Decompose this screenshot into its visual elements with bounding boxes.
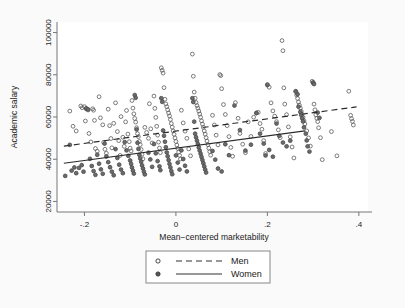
- data-point-women: [119, 168, 123, 172]
- data-point-women: [74, 171, 78, 175]
- data-point-women: [132, 172, 136, 176]
- data-point-women: [220, 170, 224, 174]
- x-tick-label: .2: [264, 220, 271, 229]
- data-point-women: [134, 96, 138, 100]
- data-point-women: [306, 144, 310, 148]
- data-point-women: [95, 153, 99, 157]
- data-point-women: [94, 173, 98, 177]
- data-point-women: [92, 169, 96, 173]
- data-point-women: [170, 172, 174, 176]
- data-point-women: [110, 170, 114, 174]
- data-point-women: [108, 165, 112, 169]
- data-point-women: [255, 111, 259, 115]
- data-point-women: [90, 164, 94, 168]
- data-point-women: [114, 147, 118, 151]
- y-tick-label: 20000: [44, 190, 53, 213]
- data-point-women: [213, 158, 217, 162]
- data-point-women: [264, 154, 268, 158]
- data-point-women: [258, 132, 262, 136]
- data-point-women: [190, 96, 194, 100]
- data-point-women: [158, 165, 162, 169]
- data-point-women: [106, 160, 110, 164]
- data-point-women: [297, 105, 301, 109]
- y-tick-label: 40000: [44, 148, 53, 171]
- data-point-women: [227, 153, 231, 157]
- data-point-women: [281, 141, 285, 145]
- data-point-women: [312, 82, 316, 86]
- data-point-women: [301, 120, 305, 124]
- data-point-women: [302, 125, 306, 129]
- data-point-women: [304, 132, 308, 136]
- data-point-women: [305, 139, 309, 143]
- data-point-women: [99, 167, 103, 171]
- data-point-women: [191, 100, 195, 104]
- data-point-women: [233, 104, 237, 108]
- data-point-women: [154, 151, 158, 155]
- data-point-women: [125, 148, 129, 152]
- data-point-women: [72, 166, 76, 170]
- data-point-women: [204, 171, 208, 175]
- data-point-women: [185, 170, 189, 174]
- data-point-women: [68, 143, 72, 147]
- data-point-women: [163, 140, 167, 144]
- data-point-women: [80, 163, 84, 167]
- legend-marker-women: [156, 272, 160, 276]
- y-tick-label: 60000: [44, 105, 53, 128]
- data-point-women: [97, 162, 101, 166]
- data-point-women: [165, 151, 169, 155]
- data-point-women: [275, 122, 279, 126]
- data-point-women: [271, 155, 275, 159]
- data-point-women: [262, 142, 266, 146]
- data-point-women: [101, 172, 105, 176]
- data-point-women: [166, 154, 170, 158]
- data-point-women: [181, 157, 185, 161]
- data-point-women: [150, 165, 154, 169]
- data-point-women: [161, 129, 165, 133]
- data-point-women: [180, 148, 184, 152]
- data-point-women: [135, 128, 139, 132]
- data-point-women: [244, 149, 248, 153]
- y-tick-label: 80000: [44, 63, 53, 86]
- data-point-women: [288, 139, 292, 143]
- data-point-women: [216, 167, 220, 171]
- figure-container: 20000400006000080000100000-.20.2.4 Acade…: [0, 0, 405, 308]
- data-point-women: [223, 142, 227, 146]
- data-point-women: [103, 142, 107, 146]
- data-point-women: [82, 170, 86, 174]
- data-point-women: [156, 159, 160, 163]
- data-point-women: [176, 161, 180, 165]
- data-point-women: [308, 150, 312, 154]
- data-point-women: [164, 145, 168, 149]
- data-point-women: [86, 108, 90, 112]
- data-point-women: [265, 83, 269, 87]
- data-point-women: [160, 100, 164, 104]
- data-point-women: [123, 140, 127, 144]
- data-point-women: [249, 143, 253, 147]
- data-point-women: [136, 141, 140, 145]
- legend-label-women: Women: [231, 269, 262, 279]
- y-axis-title: Academic salary: [9, 85, 19, 148]
- data-point-women: [285, 144, 289, 148]
- x-tick-label: -.2: [80, 220, 90, 229]
- data-point-women: [183, 164, 187, 168]
- data-point-women: [121, 171, 125, 175]
- x-axis-title: Mean−centered marketability: [159, 232, 269, 242]
- data-point-women: [162, 134, 166, 138]
- data-point-women: [137, 147, 141, 151]
- legend: Men Women: [146, 251, 270, 283]
- legend-label-men: Men: [231, 256, 249, 266]
- data-point-women: [174, 154, 178, 158]
- data-point-women: [143, 173, 147, 177]
- data-point-women: [63, 174, 67, 178]
- x-tick-label: .4: [356, 220, 363, 229]
- data-point-women: [192, 120, 196, 124]
- data-point-women: [158, 168, 162, 172]
- data-point-women: [148, 158, 152, 162]
- data-point-women: [152, 142, 156, 146]
- scatter-plot: 20000400006000080000100000-.20.2.4 Acade…: [0, 0, 405, 308]
- data-point-women: [70, 169, 74, 173]
- data-point-women: [112, 173, 116, 177]
- data-point-women: [167, 158, 171, 162]
- data-point-women: [117, 163, 121, 167]
- x-tick-label: 0: [174, 220, 179, 229]
